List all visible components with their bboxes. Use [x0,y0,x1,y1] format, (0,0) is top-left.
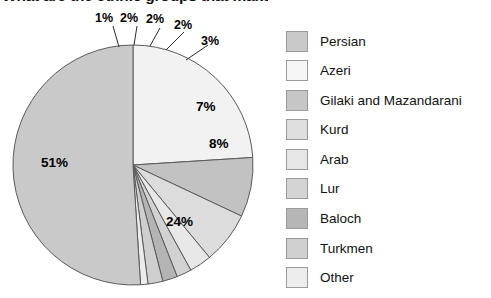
legend-item[interactable]: Persian [286,28,491,54]
slice-value-label: 2% [120,11,138,25]
pie-slice[interactable] [13,45,141,285]
legend-item-label: Other [320,270,354,285]
legend-item-label: Gilaki and Mazandarani [320,93,462,108]
legend-item[interactable]: Gilaki and Mazandarani [286,87,491,113]
slice-value-label: 7% [196,99,216,114]
leader-line [134,26,137,45]
pie-chart-area: 51%24%8%7%3%2%2%2%1% [0,0,268,298]
legend-item-label: Persian [320,34,366,49]
legend-item[interactable]: Azeri [286,58,491,84]
legend-swatch-icon [286,31,308,52]
slice-value-label: 24% [166,214,193,229]
pie-slice[interactable] [133,45,253,165]
legend-swatch-icon [286,119,308,140]
legend-swatch-icon [286,178,308,199]
legend-swatch-icon [286,60,308,81]
legend-swatch-icon [286,267,308,288]
legend-item[interactable]: Kurd [286,117,491,143]
legend-item-label: Arab [320,152,349,167]
slice-value-label: 2% [146,12,164,26]
leader-line [166,32,184,50]
slice-value-label: 2% [174,18,192,32]
legend-item[interactable]: Lur [286,176,491,202]
legend-item[interactable]: Baloch [286,206,491,232]
legend-item-label: Turkmen [320,241,373,256]
legend-item[interactable]: Other [286,265,491,291]
slice-value-label: 8% [209,136,229,151]
slice-value-label: 3% [201,34,219,48]
legend-item-label: Kurd [320,122,349,137]
legend-swatch-icon [286,238,308,259]
pie-chart-figure: What are the ethnic groups that make up … [0,0,491,298]
legend-item-label: Azeri [320,63,351,78]
legend-swatch-icon [286,208,308,229]
leader-line [113,26,119,47]
legend-swatch-icon [286,90,308,111]
legend-item-label: Lur [320,181,340,196]
legend-item-label: Baloch [320,211,361,226]
legend-item[interactable]: Turkmen [286,235,491,261]
legend-item[interactable]: Arab [286,146,491,172]
slice-value-label: 1% [95,11,113,25]
leader-line [150,28,160,46]
slice-value-label: 51% [41,155,68,170]
chart-legend: PersianAzeriGilaki and MazandaraniKurdAr… [286,28,491,294]
legend-swatch-icon [286,149,308,170]
